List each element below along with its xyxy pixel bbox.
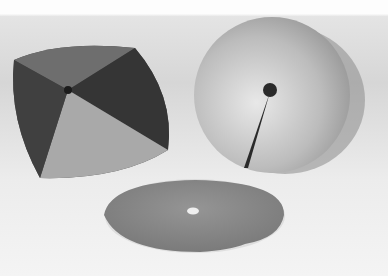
folded-square-plate [13, 46, 169, 178]
photo-scene [0, 0, 388, 276]
slit-disc [194, 17, 350, 173]
flat-disc-with-hole [104, 179, 285, 253]
photograph [0, 0, 388, 276]
